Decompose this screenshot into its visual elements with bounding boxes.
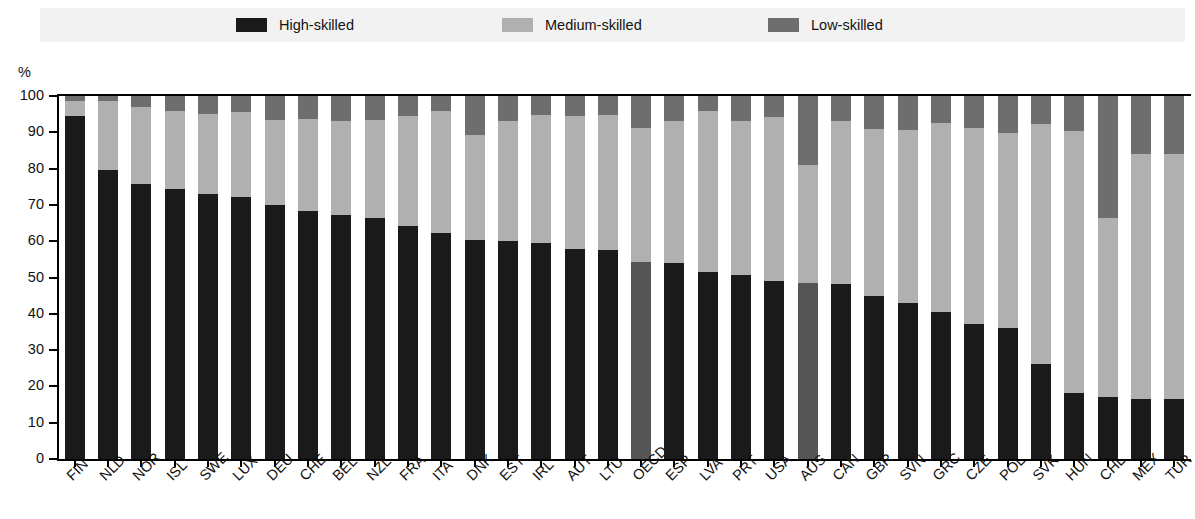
bar-segment-low-skilled: [798, 96, 818, 165]
bar-segment-high-skilled: [764, 281, 784, 459]
bar-nzl[interactable]: [365, 96, 385, 459]
bar-oecd[interactable]: [631, 96, 651, 459]
bar-segment-high-skilled: [365, 218, 385, 459]
legend-item-high-skilled[interactable]: High-skilled: [236, 18, 354, 32]
bar-che[interactable]: [298, 96, 318, 459]
bar-segment-medium-skilled: [131, 107, 151, 184]
bar-segment-medium-skilled: [398, 116, 418, 226]
y-axis-tick: [49, 204, 58, 206]
bar-segment-high-skilled: [598, 250, 618, 459]
bar-gbr[interactable]: [864, 96, 884, 459]
bar-deu[interactable]: [265, 96, 285, 459]
bar-esp[interactable]: [664, 96, 684, 459]
bar-segment-medium-skilled: [798, 165, 818, 283]
bar-ita[interactable]: [431, 96, 451, 459]
legend-item-medium-skilled[interactable]: Medium-skilled: [502, 18, 642, 32]
bar-segment-high-skilled: [265, 205, 285, 459]
y-axis-tick: [49, 277, 58, 279]
bar-segment-high-skilled: [131, 184, 151, 459]
y-axis-tick-label: 40: [8, 306, 44, 321]
bar-segment-medium-skilled: [631, 128, 651, 262]
bar-est[interactable]: [498, 96, 518, 459]
y-axis-tick-label: 0: [8, 451, 44, 466]
legend-swatch-low-skilled: [768, 18, 799, 32]
bar-dnk[interactable]: [465, 96, 485, 459]
bar-segment-high-skilled: [165, 189, 185, 459]
bar-grc[interactable]: [931, 96, 951, 459]
bar-segment-medium-skilled: [1031, 124, 1051, 363]
bar-swe[interactable]: [198, 96, 218, 459]
bar-bel[interactable]: [331, 96, 351, 459]
bar-isl[interactable]: [165, 96, 185, 459]
bar-segment-low-skilled: [1064, 96, 1084, 130]
bar-nld[interactable]: [98, 96, 118, 459]
y-axis-tick-label: 60: [8, 233, 44, 248]
bar-mex[interactable]: [1131, 96, 1151, 459]
bar-segment-high-skilled: [731, 275, 751, 459]
bar-segment-medium-skilled: [65, 101, 85, 116]
legend-swatch-medium-skilled: [502, 18, 533, 32]
bar-aut[interactable]: [565, 96, 585, 459]
bar-segment-low-skilled: [698, 96, 718, 111]
bar-fin[interactable]: [65, 96, 85, 459]
bar-segment-high-skilled: [1031, 364, 1051, 459]
bar-segment-low-skilled: [365, 96, 385, 120]
bar-irl[interactable]: [531, 96, 551, 459]
bar-svk[interactable]: [1031, 96, 1051, 459]
bar-segment-low-skilled: [864, 96, 884, 129]
bar-lux[interactable]: [231, 96, 251, 459]
bar-segment-high-skilled: [898, 303, 918, 459]
bar-segment-low-skilled: [898, 96, 918, 130]
bar-segment-medium-skilled: [465, 135, 485, 240]
bar-segment-high-skilled: [498, 241, 518, 459]
bar-cze[interactable]: [964, 96, 984, 459]
bar-segment-low-skilled: [931, 96, 951, 122]
legend-label-low-skilled: Low-skilled: [811, 18, 883, 32]
bar-hun[interactable]: [1064, 96, 1084, 459]
y-axis-tick: [49, 95, 58, 97]
bar-segment-low-skilled: [565, 96, 585, 116]
bar-usa[interactable]: [764, 96, 784, 459]
bar-fra[interactable]: [398, 96, 418, 459]
bar-lva[interactable]: [698, 96, 718, 459]
y-axis-tick-label: 70: [8, 197, 44, 212]
bar-segment-medium-skilled: [198, 114, 218, 194]
bar-segment-high-skilled: [298, 211, 318, 459]
bar-segment-medium-skilled: [764, 117, 784, 281]
y-axis-tick: [49, 385, 58, 387]
bar-segment-high-skilled: [65, 116, 85, 459]
x-axis-label-isl: ISL: [164, 458, 190, 484]
bar-pol[interactable]: [998, 96, 1018, 459]
y-axis-tick-label: 20: [8, 378, 44, 393]
bar-segment-low-skilled: [1131, 96, 1151, 154]
legend-item-low-skilled[interactable]: Low-skilled: [768, 18, 883, 32]
bar-can[interactable]: [831, 96, 851, 459]
bar-svn[interactable]: [898, 96, 918, 459]
bar-tur[interactable]: [1164, 96, 1184, 459]
bar-segment-medium-skilled: [331, 121, 351, 215]
bar-ltu[interactable]: [598, 96, 618, 459]
bar-aus[interactable]: [798, 96, 818, 459]
bar-segment-high-skilled: [465, 240, 485, 459]
bar-segment-high-skilled: [864, 296, 884, 459]
bar-chl[interactable]: [1098, 96, 1118, 459]
bar-segment-low-skilled: [631, 96, 651, 128]
y-axis-tick-label: 30: [8, 342, 44, 357]
bar-segment-high-skilled: [1164, 399, 1184, 459]
bar-segment-high-skilled: [798, 283, 818, 459]
bar-prt[interactable]: [731, 96, 751, 459]
bar-segment-high-skilled: [198, 194, 218, 459]
bar-segment-low-skilled: [465, 96, 485, 135]
bar-segment-high-skilled: [1131, 399, 1151, 459]
bar-segment-medium-skilled: [231, 112, 251, 197]
bar-segment-medium-skilled: [265, 120, 285, 205]
bar-nor[interactable]: [131, 96, 151, 459]
bar-segment-high-skilled: [831, 284, 851, 459]
bar-segment-high-skilled: [231, 197, 251, 459]
bar-segment-high-skilled: [998, 328, 1018, 459]
bar-segment-medium-skilled: [598, 115, 618, 251]
bar-segment-high-skilled: [698, 272, 718, 459]
bar-segment-low-skilled: [764, 96, 784, 117]
y-axis-tick: [49, 168, 58, 170]
bar-segment-medium-skilled: [365, 120, 385, 218]
